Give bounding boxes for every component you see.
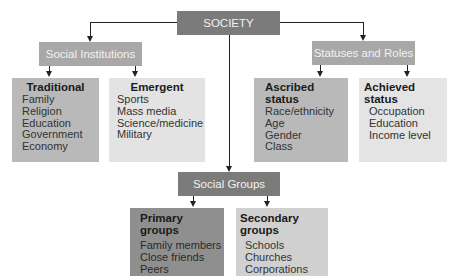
arrow-down-icon xyxy=(404,71,410,77)
connector-left-vertical xyxy=(90,22,91,37)
social-groups-label: Social Groups xyxy=(193,178,265,190)
arrow-down-icon xyxy=(46,71,52,77)
list-item: Mass media xyxy=(117,106,205,118)
society-label: SOCIETY xyxy=(203,17,253,29)
list-item: Corporations xyxy=(245,264,328,276)
statuses-roles-node: Statuses and Roles xyxy=(312,41,415,65)
social-institutions-node: Social Institutions xyxy=(39,42,142,66)
traditional-list: Family Religion Education Government Eco… xyxy=(12,94,99,153)
statuses-roles-label: Statuses and Roles xyxy=(314,47,414,59)
traditional-box: Traditional Family Religion Education Go… xyxy=(12,78,99,162)
emergent-title: Emergent xyxy=(109,81,205,93)
traditional-title: Traditional xyxy=(12,81,99,93)
list-item: Peers xyxy=(140,264,224,276)
emergent-box: Emergent Sports Mass media Science/medic… xyxy=(109,78,205,162)
emergent-list: Sports Mass media Science/medicine Milit… xyxy=(109,94,205,141)
secondary-groups-box: Secondary groups Schools Churches Corpor… xyxy=(236,208,328,276)
arrow-down-icon xyxy=(264,201,270,207)
list-item: Churches xyxy=(245,252,328,264)
social-institutions-label: Social Institutions xyxy=(46,48,136,60)
social-groups-node: Social Groups xyxy=(178,172,280,196)
primary-groups-box: Primary groups Family members Close frie… xyxy=(130,208,224,276)
list-item: Economy xyxy=(22,141,99,153)
arrow-down-icon xyxy=(317,71,323,77)
primary-groups-title: Primary groups xyxy=(130,212,224,236)
ascribed-status-title: Ascribed status xyxy=(254,81,348,105)
connector-right-horizontal xyxy=(279,22,364,23)
list-item: Age xyxy=(265,118,348,130)
connector-right-vertical xyxy=(363,22,364,36)
list-item: Class xyxy=(265,141,348,153)
primary-groups-list: Family members Close friends Peers xyxy=(130,240,224,275)
ascribed-status-box: Ascribed status Race/ethnicity Age Gende… xyxy=(254,78,348,162)
achieved-status-box: Achieved status Occupation Education Inc… xyxy=(359,78,447,162)
society-node: SOCIETY xyxy=(177,11,280,35)
list-item: Religion xyxy=(22,106,99,118)
list-item: Income level xyxy=(369,130,447,142)
connector-center-vertical xyxy=(229,35,230,167)
list-item: Close friends xyxy=(140,252,224,264)
list-item: Military xyxy=(117,129,205,141)
list-item: Education xyxy=(369,118,447,130)
arrow-down-icon xyxy=(132,71,138,77)
achieved-status-title: Achieved status xyxy=(359,81,447,105)
ascribed-status-list: Race/ethnicity Age Gender Class xyxy=(254,106,348,153)
secondary-groups-title: Secondary groups xyxy=(236,212,328,236)
connector-left-horizontal xyxy=(90,22,178,23)
achieved-status-list: Occupation Education Income level xyxy=(359,106,447,141)
secondary-groups-list: Schools Churches Corporations xyxy=(236,240,328,275)
arrow-down-icon xyxy=(190,201,196,207)
